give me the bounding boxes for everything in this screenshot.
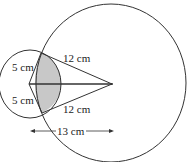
arrowhead-right-icon xyxy=(109,129,114,133)
large-circle-center-point xyxy=(111,83,113,85)
label-12cm-bottom: 12 cm xyxy=(63,103,91,115)
geometry-diagram: 12 cm 12 cm 5 cm 5 cm 13 cm xyxy=(0,0,191,162)
label-5cm-bottom: 5 cm xyxy=(12,94,34,106)
label-13cm: 13 cm xyxy=(57,125,85,137)
label-12cm-top: 12 cm xyxy=(63,52,91,64)
arrowhead-left-icon xyxy=(30,129,35,133)
label-5cm-top: 5 cm xyxy=(12,61,34,73)
shaded-overlap-region xyxy=(35,53,61,113)
